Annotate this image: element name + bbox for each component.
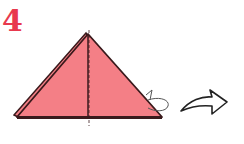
next-step-arrow-icon	[181, 90, 227, 114]
paper-triangle	[17, 34, 162, 117]
origami-diagram	[0, 0, 244, 144]
